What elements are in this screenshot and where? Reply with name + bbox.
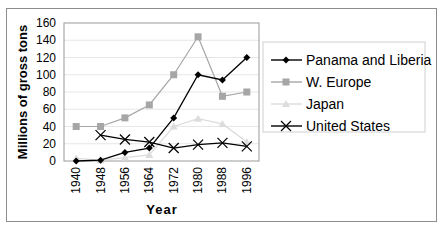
y-tick-label: 0 [49, 154, 56, 168]
legend-label: United States [306, 118, 390, 134]
y-tick-label: 80 [43, 85, 57, 99]
y-tick-label: 60 [43, 102, 57, 116]
data-series [72, 33, 252, 164]
y-tick-label: 20 [43, 137, 57, 151]
square-marker [170, 71, 177, 78]
legend-item: W. Europe [271, 74, 372, 90]
series-united-states [96, 130, 252, 153]
diamond-marker [283, 57, 290, 64]
square-marker [146, 101, 153, 108]
x-tick-label: 1940 [69, 167, 83, 194]
square-marker [73, 123, 80, 130]
legend-label: Panama and Liberia [306, 52, 432, 68]
legend-label: W. Europe [306, 74, 372, 90]
legend-label: Japan [306, 96, 344, 112]
square-marker [97, 123, 104, 130]
x-tick-label: 1996 [240, 167, 254, 194]
y-tick-label: 120 [36, 51, 56, 65]
square-marker [195, 33, 202, 40]
triangle-marker [194, 115, 202, 122]
x-tick-label: 1988 [215, 167, 229, 194]
line-chart: 020406080100120140160 194019481956196419… [0, 0, 444, 232]
diamond-marker [121, 149, 128, 156]
x-tick-label: 1964 [142, 167, 156, 194]
square-marker [243, 89, 250, 96]
series-japan [72, 115, 251, 163]
x-axis-label: Year [146, 202, 177, 217]
legend-item: Panama and Liberia [271, 52, 432, 68]
x-axis-ticks: 19401948195619641972198019881996 [69, 167, 254, 194]
y-tick-label: 100 [36, 68, 56, 82]
x-tick-label: 1980 [191, 167, 205, 194]
y-axis-label: Millions of gross tons [15, 25, 30, 159]
y-tick-label: 160 [36, 16, 56, 30]
y-tick-label: 140 [36, 33, 56, 47]
x-tick-label: 1948 [94, 167, 108, 194]
square-marker [219, 93, 226, 100]
diamond-marker [195, 71, 202, 78]
legend-item: Japan [271, 96, 344, 112]
y-axis-ticks: 020406080100120140160 [36, 16, 56, 168]
x-tick-label: 1972 [167, 167, 181, 194]
square-marker [283, 79, 290, 86]
gridlines [64, 40, 259, 144]
legend: Panama and LiberiaW. EuropeJapanUnited S… [271, 52, 432, 134]
y-tick-label: 40 [43, 120, 57, 134]
square-marker [121, 114, 128, 121]
x-tick-label: 1956 [118, 167, 132, 194]
